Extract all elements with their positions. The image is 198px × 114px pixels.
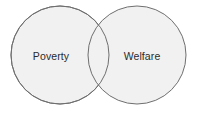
venn-diagram-canvas: Poverty Welfare — [0, 0, 198, 114]
venn-diagram-figure: Poverty Welfare — [0, 0, 198, 114]
venn-label-left: Poverty — [33, 50, 70, 62]
venn-label-right: Welfare — [124, 50, 161, 62]
